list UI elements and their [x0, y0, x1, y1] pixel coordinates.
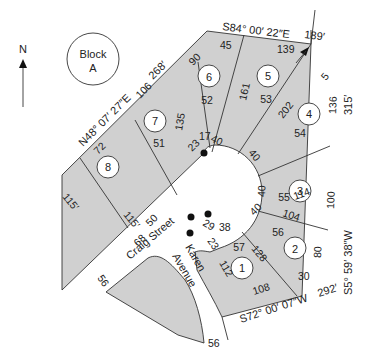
svg-text:45: 45	[220, 39, 232, 51]
svg-text:315′: 315′	[342, 95, 354, 115]
svg-text:5: 5	[318, 70, 331, 82]
svg-text:55: 55	[278, 191, 290, 203]
svg-text:56: 56	[208, 337, 220, 349]
svg-text:56: 56	[272, 226, 284, 238]
svg-text:7: 7	[152, 115, 158, 127]
svg-text:40: 40	[255, 185, 267, 197]
svg-text:S5° 59′ 38″W: S5° 59′ 38″W	[342, 230, 354, 295]
svg-text:56: 56	[95, 272, 112, 289]
svg-text:5: 5	[265, 70, 271, 82]
svg-text:17: 17	[199, 130, 211, 142]
svg-text:6: 6	[206, 71, 212, 83]
svg-text:2: 2	[292, 243, 298, 255]
svg-text:4: 4	[306, 108, 312, 120]
north-label: N	[19, 43, 27, 55]
svg-text:53: 53	[260, 93, 272, 105]
svg-text:189′: 189′	[304, 28, 326, 42]
svg-text:136: 136	[326, 96, 339, 114]
plat-diagram: N Block A 1 2 3 4 5 6 7 8 57 56 55 54 53…	[0, 0, 370, 363]
svg-text:292′: 292′	[316, 281, 339, 299]
svg-text:57: 57	[233, 241, 245, 253]
block-label: Block A	[67, 33, 119, 85]
svg-text:A: A	[89, 62, 97, 74]
svg-text:51: 51	[153, 137, 165, 149]
svg-text:54: 54	[294, 127, 306, 139]
svg-text:30: 30	[298, 270, 310, 282]
svg-text:139: 139	[277, 43, 295, 55]
svg-text:1: 1	[239, 262, 245, 274]
svg-text:38: 38	[219, 221, 231, 233]
svg-text:Block: Block	[80, 48, 107, 60]
north-arrow: N	[19, 43, 27, 107]
svg-text:80: 80	[311, 246, 323, 258]
svg-text:52: 52	[201, 94, 213, 106]
svg-text:29: 29	[201, 216, 217, 232]
svg-text:100: 100	[324, 191, 337, 209]
svg-text:8: 8	[105, 161, 111, 173]
